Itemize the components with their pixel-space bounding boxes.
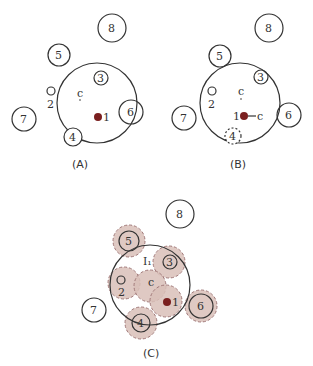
label-5: 5	[216, 50, 223, 63]
panel-a: 8 5 3 2 c 1 6 7 4 (A)	[12, 14, 143, 171]
label-8: 8	[108, 22, 115, 35]
node-2	[208, 87, 216, 95]
caption-b: (B)	[230, 158, 246, 171]
label-3: 3	[257, 71, 264, 84]
label-6: 6	[285, 109, 292, 122]
label-5: 5	[125, 235, 132, 248]
label-5: 5	[55, 49, 62, 62]
label-8: 8	[265, 22, 272, 35]
label-4: 4	[137, 317, 144, 330]
caption-c: (C)	[143, 347, 159, 360]
label-7: 7	[20, 113, 27, 126]
label-1: 1	[103, 111, 110, 124]
label-1: 1	[233, 110, 240, 123]
label-2: 2	[118, 286, 125, 299]
label-3: 3	[166, 256, 173, 269]
label-7: 7	[180, 112, 187, 125]
panel-b: 8 5 3 2 c 1 c 6 7 4 (B)	[172, 14, 301, 171]
label-6: 6	[127, 106, 134, 119]
label-4: 4	[69, 131, 76, 144]
label-c: c	[238, 85, 244, 98]
label-i1: I₁	[143, 255, 152, 268]
label-4: 4	[229, 130, 236, 143]
point-1	[240, 112, 248, 120]
point-1	[94, 113, 102, 121]
label-1: 1	[172, 296, 179, 309]
label-2: 2	[208, 98, 215, 111]
label-2: 2	[47, 98, 54, 111]
label-7: 7	[90, 304, 97, 317]
point-1	[163, 298, 171, 306]
diagram-canvas: 8 5 3 2 c 1 6 7 4 (A) 8 5 3 2 c 1 c 6	[0, 0, 313, 366]
label-8: 8	[176, 208, 183, 221]
label-c: c	[77, 87, 83, 100]
label-c: c	[148, 276, 154, 289]
label-6: 6	[197, 300, 204, 313]
label-3: 3	[97, 72, 104, 85]
label-c-moved: c	[257, 110, 263, 123]
node-2	[47, 87, 55, 95]
panel-c: 8 5 I₁ 3 2 c 1 6 7 4 (C)	[82, 200, 217, 360]
caption-a: (A)	[72, 158, 88, 171]
